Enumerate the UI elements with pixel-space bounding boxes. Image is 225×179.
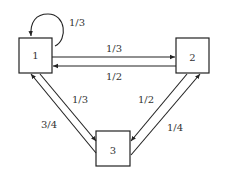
edge-1-3: 1/3 [40,74,96,141]
node-3: 3 [96,131,130,166]
edge-label-2-3: 1/2 [138,94,154,105]
edge-label-1-2: 1/3 [106,43,122,54]
edge-label-1-3: 1/3 [72,94,88,105]
node-1: 1 [19,38,52,73]
edge-label-2-1: 1/2 [106,71,122,82]
edge-3-2: 1/4 [131,74,200,155]
node-2-label: 2 [189,52,195,63]
edge-2-1: 1/2 [53,66,176,82]
node-1-label: 1 [32,50,38,61]
edge-1-2: 1/3 [52,43,175,57]
node-2: 2 [176,38,209,73]
transition-diagram: 1 2 3 1/3 1/3 1/2 1/3 3/4 1/2 1/4 [0,0,225,179]
node-3-label: 3 [110,145,116,156]
edge-3-1: 3/4 [31,74,96,153]
edge-label-3-1: 3/4 [41,119,57,130]
edge-label-1-1: 1/3 [69,17,85,28]
edge-label-3-2: 1/4 [167,122,183,133]
